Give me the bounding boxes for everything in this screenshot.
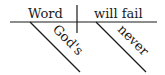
subject-modifier-label: God's — [50, 22, 87, 59]
predicate-label: will fail — [94, 6, 143, 21]
sentence-diagram: Word will fail God's never — [0, 0, 165, 75]
predicate-modifier-label: never — [115, 22, 153, 60]
subject-label: Word — [28, 6, 63, 21]
